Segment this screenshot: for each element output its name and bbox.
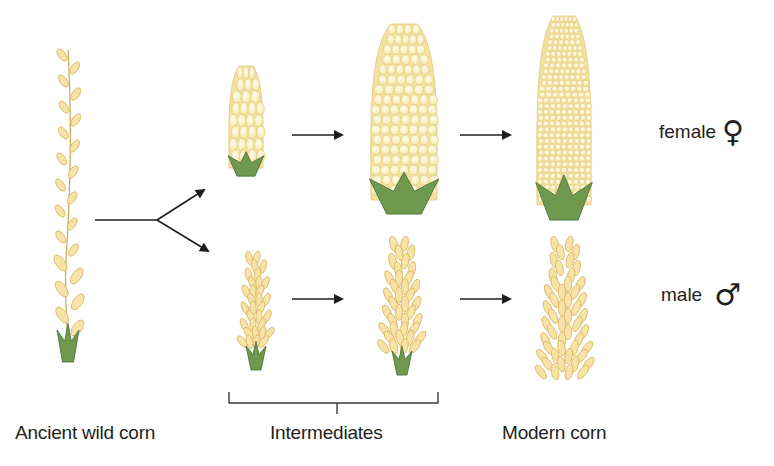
kernel xyxy=(396,25,404,35)
kernel xyxy=(567,63,573,69)
kernel xyxy=(583,80,589,86)
kernel xyxy=(237,67,243,80)
kernel xyxy=(561,121,567,127)
kernel xyxy=(572,16,576,22)
kernel xyxy=(573,156,579,162)
kernel xyxy=(580,103,586,109)
spikelet xyxy=(56,125,70,140)
kernel xyxy=(585,144,591,150)
kernel xyxy=(555,109,561,115)
kernel xyxy=(556,51,561,57)
kernel xyxy=(429,115,438,125)
kernel xyxy=(246,114,255,127)
female-label-text: female xyxy=(659,121,716,143)
kernel xyxy=(383,55,392,65)
kernel xyxy=(545,57,551,63)
kernel xyxy=(550,103,556,109)
kernel xyxy=(378,75,387,85)
kernel xyxy=(567,132,573,138)
kernel xyxy=(579,121,585,127)
kernel xyxy=(380,165,389,175)
kernel xyxy=(246,138,255,151)
kernel xyxy=(409,35,416,45)
kernel xyxy=(252,79,260,92)
kernel xyxy=(585,98,591,104)
kernel xyxy=(256,102,264,115)
kernel xyxy=(549,69,554,75)
kernel xyxy=(229,114,238,127)
kernel xyxy=(418,125,427,135)
kernel xyxy=(559,80,565,86)
kernel xyxy=(545,51,550,57)
kernel xyxy=(549,121,555,127)
kernel xyxy=(564,74,570,80)
kernel xyxy=(550,127,556,133)
kernel xyxy=(562,57,568,63)
kernel xyxy=(574,173,580,179)
spikelet xyxy=(57,99,71,114)
spikelet xyxy=(66,164,80,179)
kernel xyxy=(404,65,412,75)
kernel xyxy=(555,98,561,104)
kernel xyxy=(564,40,570,46)
stage-label-intermediates: Intermediates xyxy=(270,422,383,444)
kernel xyxy=(402,35,409,45)
kernel xyxy=(414,85,424,95)
kernel xyxy=(418,105,427,115)
kernel xyxy=(380,145,389,155)
kernel xyxy=(570,69,575,75)
kernel xyxy=(560,22,565,28)
spikelet xyxy=(69,112,83,127)
kernel xyxy=(574,127,580,133)
modern-male-tassel xyxy=(533,235,596,380)
kernel xyxy=(562,150,568,156)
kernel xyxy=(374,85,384,95)
kernel xyxy=(384,85,394,95)
kernel xyxy=(255,114,264,127)
kernel xyxy=(417,35,424,45)
kernel xyxy=(547,40,553,46)
kernel xyxy=(390,165,399,175)
kernel xyxy=(586,103,592,109)
kernel xyxy=(565,69,570,75)
kernel xyxy=(574,103,580,109)
kernel xyxy=(551,57,557,63)
kernel xyxy=(573,45,578,51)
kernel xyxy=(409,145,418,155)
kernel xyxy=(401,115,410,125)
kernel xyxy=(568,103,574,109)
kernel xyxy=(241,90,250,103)
kernel xyxy=(567,121,573,127)
kernel xyxy=(549,179,555,185)
kernel xyxy=(429,135,438,145)
intermediates-bracket xyxy=(229,392,438,414)
kernel xyxy=(580,127,586,133)
kernel xyxy=(249,67,255,80)
spikelet xyxy=(69,292,87,312)
kernel xyxy=(561,167,567,173)
kernel xyxy=(568,161,574,167)
kernel xyxy=(567,144,573,150)
kernel xyxy=(415,75,424,85)
kernel xyxy=(583,86,589,92)
kernel xyxy=(569,28,574,34)
kernel xyxy=(404,25,412,35)
kernel xyxy=(409,125,418,135)
kernel xyxy=(390,145,399,155)
kernel xyxy=(573,179,579,185)
kernel xyxy=(543,144,549,150)
kernel xyxy=(380,105,389,115)
kernel xyxy=(392,135,401,145)
kernel xyxy=(557,45,562,51)
kernel xyxy=(553,74,559,80)
kernel xyxy=(537,132,543,138)
kernel xyxy=(551,16,555,22)
kernel xyxy=(550,115,556,121)
kernel xyxy=(575,34,580,40)
kernel xyxy=(564,28,569,34)
kernel xyxy=(573,132,579,138)
kernel xyxy=(543,98,549,104)
kernel xyxy=(400,45,408,55)
kernel xyxy=(550,185,556,191)
kernel xyxy=(544,150,550,156)
